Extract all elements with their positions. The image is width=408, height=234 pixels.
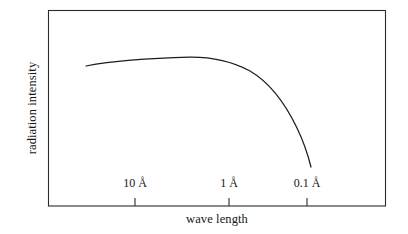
- x-tick-label-10a: 10 Å: [123, 176, 147, 191]
- radiation-intensity-curve: [86, 57, 311, 167]
- chart-figure: radiation intensity wave length 10 Å 1 Å…: [0, 0, 408, 234]
- y-axis-label: radiation intensity: [22, 10, 42, 206]
- chart-canvas: [0, 0, 408, 234]
- x-tick-label-1a: 1 Å: [220, 176, 238, 191]
- plot-frame: [49, 11, 386, 207]
- x-axis-label: wave length: [48, 212, 386, 227]
- x-tick-label-01a: 0.1 Å: [294, 176, 321, 191]
